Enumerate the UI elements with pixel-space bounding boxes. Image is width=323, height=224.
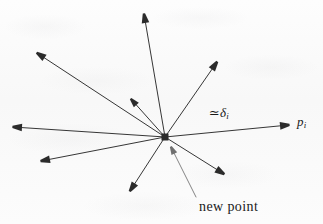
vector-up (142, 13, 165, 137)
vector-shaft (134, 137, 165, 185)
vector-shaft (165, 68, 213, 137)
arrowhead (40, 156, 50, 163)
p-symbol: p (297, 114, 304, 129)
new-point-label: new point (199, 200, 258, 214)
new-point-marker (162, 134, 169, 141)
figure-root: ≃δi pi new point (0, 0, 323, 224)
arrowhead (129, 181, 138, 192)
approx-symbol: ≃ (209, 105, 220, 120)
p-subscript: i (304, 120, 307, 130)
delta-label: ≃δi (209, 106, 229, 121)
arrowhead (280, 122, 290, 130)
arrowhead (214, 166, 225, 175)
vectors-group (12, 13, 289, 192)
vector-upper-right (165, 61, 218, 137)
arrowhead (170, 146, 177, 155)
vector-shaft (20, 127, 165, 137)
vector-shaft (145, 21, 165, 137)
vector-shaft (43, 57, 165, 137)
arrowhead (12, 124, 22, 132)
vector-shaft (165, 126, 282, 137)
p-i-label: pi (297, 115, 306, 130)
arrowhead (36, 52, 47, 61)
vector-shaft (48, 137, 165, 160)
vector-canvas (0, 0, 323, 224)
vector-right (165, 122, 290, 137)
vector-down (129, 137, 165, 192)
delta-subscript: i (226, 111, 229, 121)
vector-lower-right (165, 137, 225, 175)
hub-marker-group (162, 134, 169, 141)
vector-lower-left (40, 137, 165, 163)
vector-upper-left (36, 52, 165, 137)
arrowhead (209, 61, 219, 72)
leader-shaft (173, 151, 196, 197)
arrowhead (142, 13, 149, 23)
vector-left (12, 124, 165, 137)
